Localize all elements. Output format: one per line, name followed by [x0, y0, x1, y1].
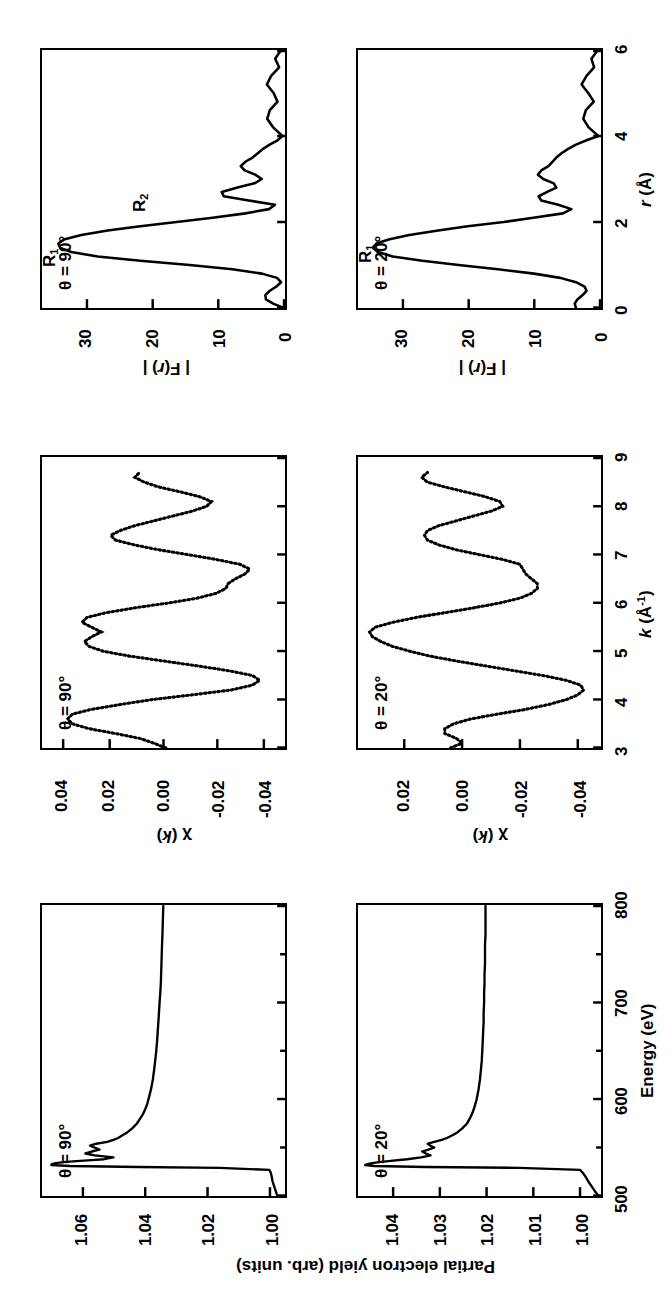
xtick-yield-3: 800 — [612, 892, 632, 919]
ytick-ft-20-2: 20 — [459, 330, 479, 348]
ytick-yield-20-2: 1.02 — [478, 1214, 498, 1246]
peak-label-r2-ft-90-sub: 2 — [138, 194, 150, 200]
ytick-chi-90-0: -0.04 — [256, 781, 276, 818]
peak-label-r1-ft-20-name: R — [356, 251, 375, 263]
xaxis-label-k: k (Å-1) — [636, 590, 656, 638]
ytick-chi-20-2: 0.00 — [453, 780, 473, 812]
curve-chi-20 — [370, 472, 584, 748]
plot-chi-20 — [358, 457, 601, 748]
curve-yield-90 — [51, 906, 277, 1196]
ytick-ft-90-1: 10 — [210, 330, 230, 348]
yaxis-label-chi-20-k: k — [478, 827, 487, 846]
ytick-chi-20-1: -0.02 — [512, 781, 532, 818]
ytick-chi-90-4: 0.04 — [52, 780, 72, 812]
xtick-ft-1: 2 — [612, 219, 632, 228]
plot-chi-90 — [42, 457, 285, 748]
xaxis-label-r-space — [636, 196, 655, 201]
curve-ft-20 — [373, 51, 598, 308]
xtick-ft-0: 0 — [612, 306, 632, 315]
xtick-yield-2: 700 — [612, 990, 632, 1017]
panel-label-yield-90: θ = 90° — [56, 1124, 76, 1178]
curve-ft-90 — [58, 51, 283, 308]
xaxis-label-r: r (Å) — [636, 172, 656, 207]
yaxis-label-chi-90-post: ) — [157, 827, 163, 846]
xaxis-label-k-space — [636, 624, 655, 629]
ytick-ft-90-0: 0 — [276, 333, 296, 342]
plot-yield-20 — [358, 905, 601, 1196]
yaxis-label-ft-90-r: r — [158, 359, 165, 378]
ytick-yield-90-3: 1.06 — [72, 1214, 92, 1246]
ytick-yield-20-1: 1.01 — [526, 1214, 546, 1246]
ytick-yield-90-2: 1.04 — [136, 1214, 156, 1246]
yaxis-label-ft-20-r: r — [474, 359, 481, 378]
panel-label-yield-20: θ = 20° — [372, 1124, 392, 1178]
ytick-ft-90-3: 30 — [76, 330, 96, 348]
yaxis-label-chi-20: χ (k) — [473, 826, 508, 846]
ytick-chi-90-1: -0.02 — [209, 781, 229, 818]
panel-ft-20 — [356, 48, 603, 310]
panel-yield-20 — [356, 903, 603, 1198]
ytick-ft-90-2: 20 — [143, 330, 163, 348]
yaxis-label-chi-20-pre: χ ( — [488, 827, 508, 846]
xtick-yield-0: 500 — [612, 1186, 632, 1213]
yaxis-label-yield: Partial electron yield (arb. units) — [236, 1256, 495, 1276]
ytick-yield-20-0: 1.00 — [573, 1214, 593, 1246]
panel-chi-90 — [40, 455, 287, 750]
xaxis-label-energy: Energy (eV) — [638, 1004, 658, 1098]
panel-yield-90 — [40, 903, 287, 1198]
xtick-chi-5: 8 — [612, 502, 632, 511]
ytick-chi-90-2: 0.00 — [154, 780, 174, 812]
yaxis-label-chi-90: χ (k) — [157, 826, 192, 846]
yaxis-label-ft-20-pre: | F( — [480, 359, 506, 378]
plot-yield-90 — [42, 905, 285, 1196]
peak-label-r1-ft-90-name: R — [40, 255, 59, 267]
xtick-ft-3: 6 — [612, 45, 632, 54]
ytick-chi-20-0: -0.04 — [571, 781, 591, 818]
yaxis-label-ft-90-post: ) | — [143, 359, 158, 378]
peak-label-r2-ft-90: R2 — [130, 194, 150, 212]
plot-ft-20 — [358, 50, 601, 308]
xtick-chi-1: 4 — [612, 698, 632, 707]
panel-label-chi-20: θ = 20° — [372, 676, 392, 730]
plot-ft-90 — [42, 50, 285, 308]
peak-label-r1-ft-20-sub: 1 — [364, 245, 376, 251]
xtick-chi-3: 6 — [612, 600, 632, 609]
peak-label-r2-ft-90-name: R — [130, 200, 149, 212]
peak-label-r1-ft-20: R1 — [356, 245, 376, 263]
xtick-yield-1: 600 — [612, 1088, 632, 1115]
xtick-chi-0: 3 — [612, 747, 632, 756]
ytick-ft-20-3: 30 — [392, 330, 412, 348]
ytick-yield-20-3: 1.03 — [431, 1214, 451, 1246]
panel-chi-20 — [356, 455, 603, 750]
yaxis-label-ft-20-post: ) | — [459, 359, 474, 378]
xaxis-label-k-unit: (Å — [636, 606, 655, 624]
xtick-ft-2: 4 — [612, 132, 632, 141]
panel-label-chi-90: θ = 90° — [56, 676, 76, 730]
ytick-chi-90-3: 0.02 — [99, 780, 119, 812]
ytick-yield-20-4: 1.04 — [383, 1214, 403, 1246]
xtick-chi-2: 5 — [612, 649, 632, 658]
ytick-yield-90-1: 1.02 — [199, 1214, 219, 1246]
peak-label-r1-ft-90: R1 — [40, 249, 60, 267]
yaxis-label-ft-90: | F(r) | — [143, 358, 190, 378]
ytick-chi-20-3: 0.02 — [394, 780, 414, 812]
yaxis-label-ft-90-pre: | F( — [164, 359, 190, 378]
ytick-ft-20-0: 0 — [592, 333, 612, 342]
ytick-ft-20-1: 10 — [526, 330, 546, 348]
xaxis-label-r-unit: (Å) — [636, 172, 655, 196]
peak-label-r1-ft-90-sub: 1 — [48, 249, 60, 255]
xaxis-label-k-symbol: k — [636, 629, 655, 638]
panel-ft-90 — [40, 48, 287, 310]
xaxis-label-r-symbol: r — [636, 200, 655, 207]
xtick-chi-4: 7 — [612, 551, 632, 560]
figure-rotation-wrapper: θ = 90° 1.00 1.02 1.04 1.06 — [0, 0, 670, 1310]
curve-yield-20 — [365, 906, 599, 1196]
xtick-chi-6: 9 — [612, 453, 632, 462]
xaxis-label-k-exponent: -1 — [635, 596, 647, 606]
ytick-yield-90-0: 1.00 — [263, 1214, 283, 1246]
curve-chi-90 — [67, 472, 259, 748]
yaxis-label-chi-90-k: k — [162, 827, 171, 846]
yaxis-label-chi-90-pre: χ ( — [172, 827, 192, 846]
yaxis-label-ft-20: | F(r) | — [459, 358, 506, 378]
exafs-figure: θ = 90° 1.00 1.02 1.04 1.06 — [0, 0, 670, 1310]
